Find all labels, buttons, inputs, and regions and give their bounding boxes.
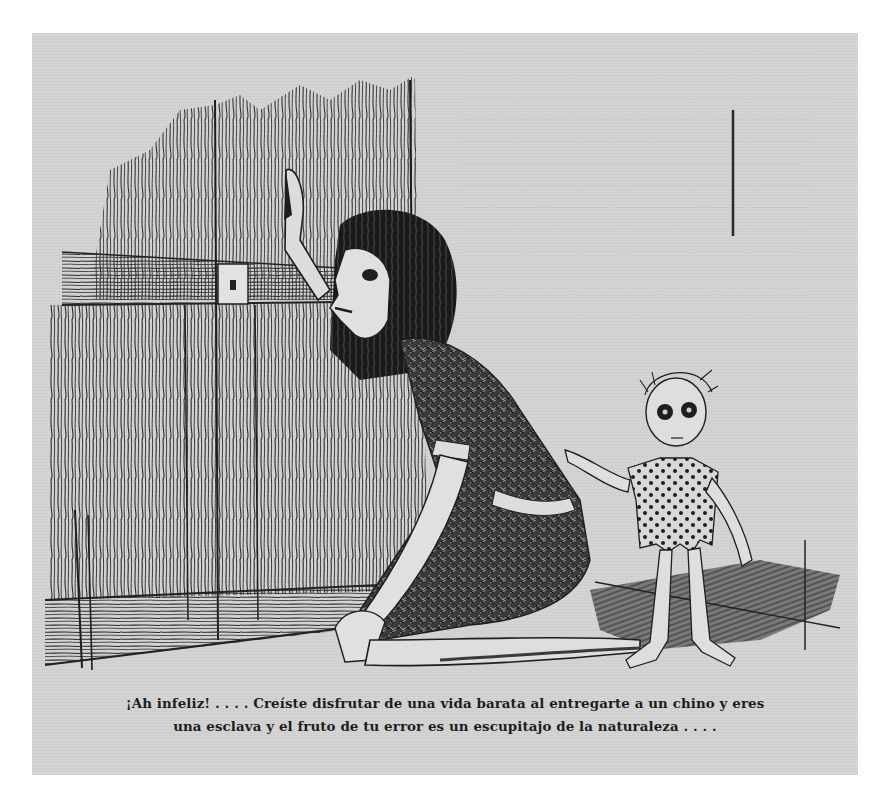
- illustration-caption: ¡Ah infeliz! . . . . Creíste disfrutar d…: [32, 692, 858, 738]
- engraving-artwork: [0, 0, 888, 800]
- caption-line-1: ¡Ah infeliz! . . . . Creíste disfrutar d…: [32, 692, 858, 715]
- caption-line-2: una esclava y el fruto de tu error es un…: [32, 715, 858, 738]
